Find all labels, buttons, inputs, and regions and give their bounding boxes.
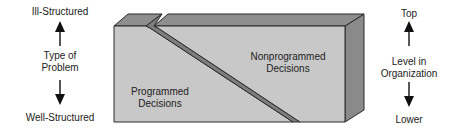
left-axis-middle-label-line1: Type of bbox=[18, 50, 102, 62]
programmed-decisions-line2: Decisions bbox=[124, 98, 196, 110]
right-axis-middle-label-line2: Organization bbox=[370, 68, 448, 80]
nonprogrammed-decisions-line2: Decisions bbox=[242, 63, 334, 75]
arrow-down-icon bbox=[404, 96, 414, 107]
block-side-face bbox=[345, 14, 364, 122]
arrow-down-icon bbox=[55, 94, 65, 105]
right-axis-bottom-label: Lower bbox=[370, 114, 448, 126]
nonprogrammed-decisions-line1: Nonprogrammed bbox=[242, 51, 334, 63]
block-top-face-right bbox=[154, 14, 364, 26]
left-axis-bottom-label: Well-Structured bbox=[14, 112, 106, 124]
programmed-decisions-line1: Programmed bbox=[124, 86, 196, 98]
arrow-up-icon bbox=[404, 21, 414, 32]
right-axis-middle-label-line1: Level in bbox=[370, 56, 448, 68]
right-axis-top-label: Top bbox=[370, 8, 448, 20]
arrow-up-icon bbox=[55, 21, 65, 32]
left-axis-top-label: Ill-Structured bbox=[18, 6, 102, 18]
left-axis-middle-label-line2: Problem bbox=[18, 62, 102, 74]
